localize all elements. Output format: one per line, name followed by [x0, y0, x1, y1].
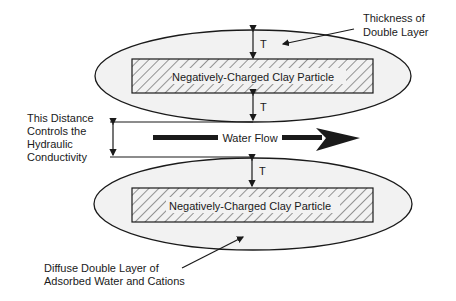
diffuse-annotation: Diffuse Double Layer of Adsorbed Water a… [44, 262, 185, 287]
bottom-particle-label: Negatively-Charged Clay Particle [169, 200, 331, 212]
water-flow-label: Water Flow [222, 132, 277, 144]
thickness-annotation: Thickness of Double Layer [363, 12, 429, 38]
svg-text:T: T [259, 165, 266, 177]
distance-annotation: This Distance Controls the Hydraulic Con… [27, 112, 97, 163]
water-flow-arrow: Water Flow [153, 128, 360, 151]
bottom-clay-particle-group: Negatively-Charged Clay Particle [94, 158, 412, 250]
svg-text:T: T [260, 101, 267, 113]
svg-text:T: T [260, 38, 267, 50]
top-particle-label: Negatively-Charged Clay Particle [172, 71, 334, 83]
clay-double-layer-diagram: Negatively-Charged Clay Particle Negativ… [0, 0, 456, 301]
